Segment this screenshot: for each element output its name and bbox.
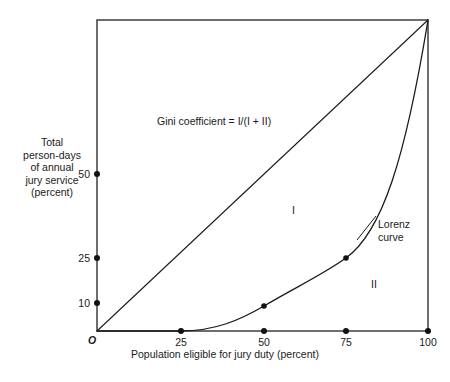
gini-coefficient-annotation: Gini coefficient = I/(I + II) <box>157 115 271 127</box>
region-label-one: I <box>292 204 295 216</box>
origin-label: O <box>88 334 96 346</box>
y-axis-label-line-1: Total <box>6 136 98 149</box>
y-axis-label-line-5: (percent) <box>6 186 98 199</box>
cropped-footer-text <box>60 374 400 382</box>
lorenz-curve-label-line-1: Lorenz <box>378 218 410 231</box>
lorenz-curve-label-line-2: curve <box>378 231 410 244</box>
x-tick-label-100: 100 <box>408 336 448 348</box>
y-tick-label-50: 50 <box>60 168 90 180</box>
x-tick-label-50: 50 <box>244 336 284 348</box>
lorenz-curve-label: Lorenz curve <box>378 218 410 243</box>
y-tick-label-25: 25 <box>60 252 90 264</box>
y-axis-label-line-2: person-days <box>6 149 98 162</box>
y-tick-label-10: 10 <box>60 297 90 309</box>
region-label-two: II <box>371 278 377 290</box>
x-tick-label-25: 25 <box>161 336 201 348</box>
lorenz-curve-chart: Total person-days of annual jury service… <box>0 0 450 382</box>
x-axis-label: Population eligible for jury duty (perce… <box>0 348 450 360</box>
x-tick-label-75: 75 <box>326 336 366 348</box>
